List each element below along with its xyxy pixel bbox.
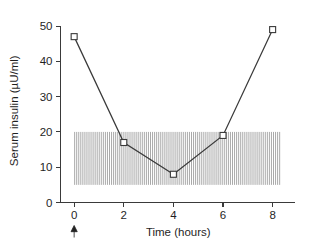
y-tick-label: 20: [40, 126, 53, 138]
insulin-time-chart: 01020304050 02468 Time (hours) Serum ins…: [0, 0, 314, 246]
data-point-marker: [220, 132, 226, 138]
chart-canvas: 01020304050 02468 Time (hours) Serum ins…: [0, 0, 314, 246]
data-point-marker: [71, 34, 77, 40]
shaded-reference-band: [75, 132, 280, 185]
x-tick-label: 2: [121, 209, 127, 221]
x-axis-title: Time (hours): [146, 226, 211, 238]
x-tick-label: 6: [220, 209, 226, 221]
y-axis-title: Serum insulin (µU/ml): [8, 55, 20, 166]
data-point-marker: [170, 171, 176, 177]
x-tick-label: 4: [170, 209, 177, 221]
y-tick-label: 50: [40, 20, 53, 32]
y-axis-ticks: [56, 26, 61, 202]
y-axis-tick-labels: 01020304050: [40, 20, 53, 208]
x-axis-ticks: [74, 203, 272, 208]
data-point-marker: [121, 140, 127, 146]
x-tick-label: 8: [269, 209, 275, 221]
y-tick-label: 30: [40, 91, 53, 103]
axes-group: [61, 26, 296, 202]
y-tick-label: 0: [46, 197, 52, 209]
x-axis-tick-labels: 02468: [71, 209, 276, 221]
y-tick-label: 10: [40, 161, 53, 173]
dose-arrow-icon: [71, 226, 77, 238]
x-tick-label: 0: [71, 209, 77, 221]
data-point-marker: [270, 27, 276, 33]
y-tick-label: 40: [40, 55, 53, 67]
